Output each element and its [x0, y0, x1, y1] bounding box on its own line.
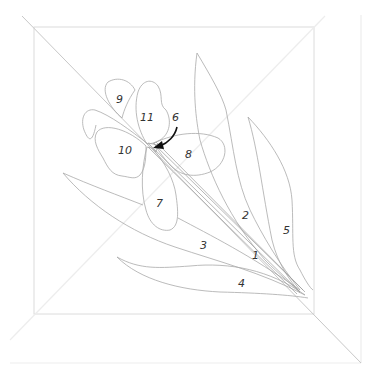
leaf-4 — [117, 257, 308, 298]
label-7: 7 — [156, 197, 163, 210]
label-11: 11 — [140, 111, 154, 124]
anti-diagonal — [10, 16, 325, 340]
label-2: 2 — [242, 209, 249, 222]
stem-1 — [148, 142, 305, 294]
leaf-3 — [63, 173, 305, 295]
label-4: 4 — [238, 277, 245, 290]
label-8: 8 — [185, 148, 192, 161]
label-5: 5 — [283, 224, 290, 237]
label-6: 6 — [172, 111, 179, 124]
pattern-drawing: 1 2 3 4 5 6 7 8 9 10 11 — [0, 0, 379, 375]
leaf-5 — [248, 117, 313, 293]
label-9: 9 — [116, 93, 123, 106]
label-1: 1 — [252, 249, 259, 262]
petal-7 — [142, 147, 177, 230]
label-3: 3 — [200, 239, 207, 252]
label-10: 10 — [118, 144, 132, 157]
